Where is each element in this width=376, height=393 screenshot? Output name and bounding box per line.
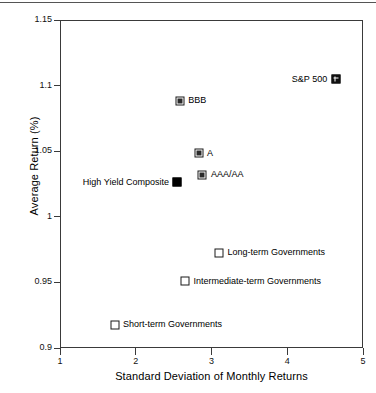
data-point[interactable]: Short-term Governments [110,320,119,329]
data-point-marker-half-icon [194,149,203,158]
data-point-marker-open-icon [215,248,224,257]
y-axis-tick-label: 1 [47,212,52,221]
data-point[interactable]: Long-term Governments [215,248,224,257]
x-axis-tick [363,348,364,355]
x-axis-title: Standard Deviation of Monthly Returns [60,370,363,382]
data-point-marker-gridsq-icon [331,75,340,84]
data-point[interactable]: S&P 500 [331,75,340,84]
y-axis-tick [54,20,61,21]
data-point-label: AAA/AA [211,170,244,179]
data-point-label: A [207,149,213,158]
y-axis-tick [54,282,61,283]
x-axis-tick-label: 1 [57,357,62,366]
data-point-label: High Yield Composite [83,178,169,187]
data-point[interactable]: High Yield Composite [173,178,182,187]
data-point-marker-open-icon [180,277,189,286]
y-axis-tick-label: 1.15 [34,15,52,24]
y-axis-tick-label: 0.95 [34,277,52,286]
x-axis-tick [211,348,212,355]
x-axis-tick [287,348,288,355]
data-point-marker-filled-icon [173,178,182,187]
top-divider [0,2,376,3]
data-point-label: Intermediate-term Governments [193,277,321,286]
x-axis-tick-label: 5 [360,357,365,366]
data-point-label: Short-term Governments [123,320,222,329]
data-point[interactable]: Intermediate-term Governments [180,277,189,286]
x-axis-tick-label: 4 [285,357,290,366]
data-point[interactable]: BBB [175,96,184,105]
data-point-label: Long-term Governments [228,248,326,257]
y-axis-title: Average Return (%) [28,66,40,266]
data-point[interactable]: AAA/AA [198,170,207,179]
data-point-label: S&P 500 [292,75,327,84]
x-axis-tick [135,348,136,355]
data-point[interactable]: A [194,149,203,158]
y-axis-tick-label: 1.1 [39,81,52,90]
data-point-label: BBB [188,96,206,105]
y-axis-tick [54,85,61,86]
x-axis-tick-label: 2 [133,357,138,366]
y-axis-tick [54,151,61,152]
y-axis-tick [54,216,61,217]
data-point-marker-half-icon [198,170,207,179]
data-point-marker-half-icon [175,96,184,105]
data-point-marker-open-icon [110,320,119,329]
scatter-chart-figure: 1.151.11.0510.950.9 12345 S&P 500BBBAAAA… [0,0,376,393]
x-axis-tick-label: 3 [209,357,214,366]
y-axis-tick-label: 0.9 [39,343,52,352]
x-axis-tick [60,348,61,355]
